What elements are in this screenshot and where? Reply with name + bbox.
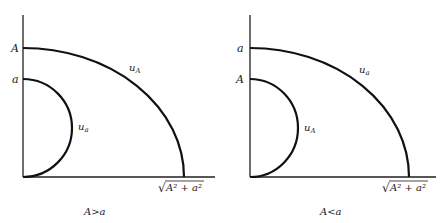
x-intercept-label: √ A² + a² xyxy=(158,181,204,195)
inner-curve-label: ua xyxy=(78,121,89,134)
outer-curve-label: uA xyxy=(129,62,141,75)
panel-right: a A ua uA √ A² + a² A<a xyxy=(235,15,436,217)
radicand: A² + a² xyxy=(165,182,202,193)
outer-curve xyxy=(23,48,184,177)
outer-curve-label: ua xyxy=(359,64,370,77)
panel-caption: A>a xyxy=(83,206,106,217)
diagram-canvas: A a uA ua √ A² + a² A>a a A ua uA √ A² +… xyxy=(0,0,446,223)
y-label-lower: a xyxy=(12,73,19,86)
radical-sign: √ xyxy=(382,181,390,195)
radicand: A² + a² xyxy=(389,182,426,193)
panel-left: A a uA ua √ A² + a² A>a xyxy=(10,15,215,217)
y-label-upper: A xyxy=(10,42,19,55)
radical-sign: √ xyxy=(158,181,166,195)
inner-curve xyxy=(23,79,72,177)
y-label-lower: A xyxy=(235,73,244,86)
panel-caption: A<a xyxy=(319,206,342,217)
inner-curve-label: uA xyxy=(304,122,316,135)
x-intercept-label: √ A² + a² xyxy=(382,181,428,195)
outer-curve xyxy=(250,48,409,177)
y-label-upper: a xyxy=(237,42,244,55)
inner-curve xyxy=(250,79,298,177)
